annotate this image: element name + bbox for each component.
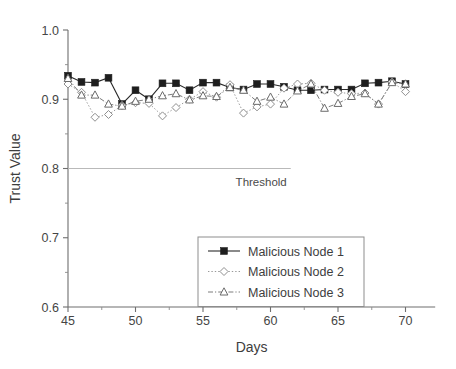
series-marker [321,104,329,111]
series-marker [375,79,382,86]
series-marker [362,80,369,87]
legend-label: Malicious Node 2 [248,265,344,279]
series-marker [91,113,99,121]
series-marker [105,110,113,118]
x-tick-label: 50 [129,314,143,328]
chart-legend[interactable]: Malicious Node 1Malicious Node 2Maliciou… [198,237,364,307]
series-1 [65,72,409,107]
y-tick-label: 1.0 [42,24,59,38]
series-marker [92,79,99,86]
series-marker [254,81,261,88]
threshold-label: Threshold [236,176,287,188]
x-axis-title: Days [236,339,268,355]
series-marker [173,80,180,87]
series-marker [91,91,99,98]
series-marker [200,79,207,86]
series-marker [78,79,85,86]
series-marker [132,87,139,94]
legend-label: Malicious Node 1 [248,245,344,259]
series-marker [280,100,288,107]
series-marker [159,80,166,87]
series-marker [213,79,220,86]
y-axis-title: Trust Value [7,133,23,203]
data-series [64,72,410,121]
series-marker [253,97,261,104]
series-2 [64,78,410,121]
series-marker [105,100,113,107]
series-marker [172,104,180,112]
x-tick-label: 65 [331,314,345,328]
series-marker [267,81,274,88]
y-tick-label: 0.8 [42,162,59,176]
y-tick-label: 0.6 [42,301,59,315]
x-tick-label: 70 [399,314,413,328]
series-marker [334,99,342,106]
legend-label: Malicious Node 3 [248,286,344,300]
series-marker [186,87,193,94]
chart-figure: 0.60.70.80.91.0455055606570 Threshold Da… [0,0,456,369]
x-tick-label: 60 [264,314,278,328]
y-tick-label: 0.7 [42,231,59,245]
series-marker [240,109,248,117]
trust-value-line-chart: 0.60.70.80.91.0455055606570 Threshold Da… [0,0,456,369]
x-tick-label: 45 [61,314,75,328]
legend-marker-sample [221,248,228,255]
threshold-annotation: Threshold [68,169,291,188]
series-marker [267,100,275,108]
series-marker [267,93,275,100]
series-marker [402,88,410,96]
y-tick-label: 0.9 [42,93,59,107]
series-marker [172,90,180,97]
x-tick-label: 55 [196,314,210,328]
series-marker [105,74,112,81]
